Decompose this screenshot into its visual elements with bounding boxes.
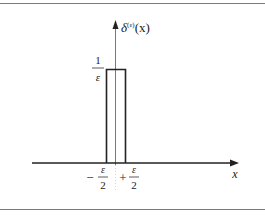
- pulse-curve: [107, 70, 126, 164]
- right-edge-sign: +: [119, 170, 126, 185]
- x-axis-arrow-icon: [230, 160, 239, 167]
- left-edge-numerator: ε: [101, 164, 105, 175]
- left-edge-denominator: 2: [100, 179, 106, 191]
- x-axis-label: x: [231, 167, 238, 181]
- delta-function-diagram: δ(ε)(x) 1 ε − ε 2 + ε 2 x: [0, 0, 265, 215]
- right-edge-numerator: ε: [132, 164, 136, 175]
- height-label-denominator: ε: [96, 71, 101, 83]
- function-label: δ(ε)(x): [121, 20, 150, 35]
- height-label-numerator: 1: [95, 54, 101, 66]
- y-axis-arrow-icon: [113, 20, 119, 29]
- left-edge-sign: −: [86, 170, 93, 185]
- right-edge-denominator: 2: [131, 179, 137, 191]
